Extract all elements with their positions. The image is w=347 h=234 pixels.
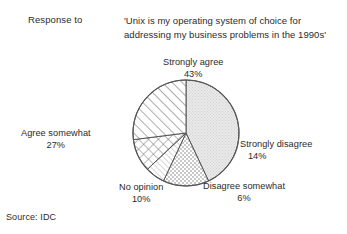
pie-slice-agree-somewhat <box>133 80 186 140</box>
slice-pct-strongly-agree: 43% <box>163 69 223 81</box>
slice-name-agree-somewhat: Agree somewhat <box>21 128 91 138</box>
chart-figure: Response to 'Unix is my operating system… <box>0 0 347 234</box>
source-note: Source: IDC <box>6 212 56 222</box>
slice-label-agree-somewhat: Agree somewhat 27% <box>21 128 91 151</box>
slice-label-disagree-somewhat: Disagree somewhat 6% <box>203 181 285 204</box>
slice-label-strongly-agree: Strongly agree 43% <box>163 57 223 80</box>
slice-label-strongly-disagree: Strongly disagree 14% <box>240 139 312 162</box>
slice-name-strongly-agree: Strongly agree <box>163 57 223 69</box>
slice-label-no-opinion: No opinion 10% <box>119 182 163 205</box>
slice-pct-disagree-somewhat: 6% <box>203 193 285 205</box>
slice-name-disagree-somewhat: Disagree somewhat <box>203 181 285 191</box>
slice-pct-no-opinion: 10% <box>119 194 163 206</box>
slice-pct-strongly-disagree: 14% <box>240 151 312 163</box>
slice-pct-agree-somewhat: 27% <box>21 140 91 152</box>
pie-chart <box>0 0 347 234</box>
slice-name-strongly-disagree: Strongly disagree <box>240 139 312 149</box>
slice-name-no-opinion: No opinion <box>119 182 163 192</box>
